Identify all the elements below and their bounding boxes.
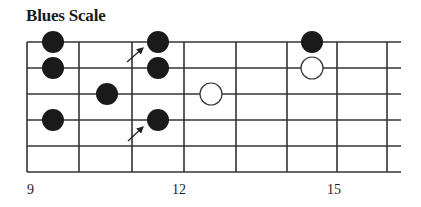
- scale-note-dot: [42, 57, 64, 79]
- scale-note-dot: [42, 109, 64, 131]
- fret-label-12: 12: [172, 182, 186, 198]
- fret-label-9: 9: [27, 182, 34, 198]
- bend-arrow-icon: [128, 127, 143, 141]
- bend-arrow-icon: [127, 48, 143, 62]
- scale-note-dot: [147, 31, 169, 53]
- scale-note-dot: [147, 57, 169, 79]
- fretboard-diagram: [0, 0, 421, 207]
- blue-note-hollow-dot: [301, 57, 323, 79]
- blue-note-hollow-dot: [200, 83, 222, 105]
- scale-note-dot: [301, 31, 323, 53]
- scale-note-dot: [147, 109, 169, 131]
- scale-note-dot: [42, 31, 64, 53]
- fret-label-15: 15: [327, 182, 341, 198]
- scale-note-dot: [96, 83, 118, 105]
